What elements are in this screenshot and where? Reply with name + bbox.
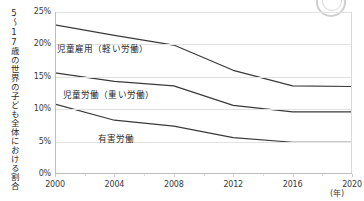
x-axis-tick-label: 2012 <box>213 180 253 189</box>
plot-right-border <box>351 12 352 174</box>
x-axis-tick <box>352 174 353 177</box>
y-axis-tick-label: 20% <box>25 39 51 48</box>
x-axis-tick-label: 2016 <box>273 180 313 189</box>
gridline <box>55 77 352 78</box>
x-axis-tick-label: 2004 <box>94 180 134 189</box>
gridline <box>55 12 352 13</box>
gridline <box>55 109 352 110</box>
series-label-child-labour: 児童労働（重い労働） <box>63 88 154 100</box>
y-axis-tick-label: 15% <box>25 72 51 81</box>
series-label-child-employment: 児童雇用（軽い労働） <box>57 42 148 54</box>
series-label-hazardous-work: 有害労働 <box>98 132 134 144</box>
line-chart: 5〜17歳の世界の子ども全体における割合 0%5%10%15%20%25% 20… <box>0 0 364 201</box>
y-axis-line <box>55 12 56 174</box>
x-axis-tick-label: 2000 <box>35 180 75 189</box>
x-axis-minor-tick <box>174 174 175 176</box>
x-axis-minor-tick <box>233 174 234 176</box>
x-axis-minor-tick <box>322 174 323 176</box>
y-axis-tick-label: 0% <box>25 169 51 178</box>
x-axis-minor-tick <box>263 174 264 176</box>
y-axis-title: 5〜17歳の世界の子ども全体における割合 <box>2 8 18 188</box>
x-axis-tick-label: 2008 <box>154 180 194 189</box>
x-axis-minor-tick <box>85 174 86 176</box>
y-axis-tick-label: 5% <box>25 137 51 146</box>
x-axis-minor-tick <box>114 174 115 176</box>
x-axis-tick <box>55 174 56 177</box>
x-axis-minor-tick <box>204 174 205 176</box>
y-axis-tick-label: 25% <box>25 7 51 16</box>
x-axis-minor-tick <box>293 174 294 176</box>
x-axis-minor-tick <box>144 174 145 176</box>
y-axis-tick-label: 10% <box>25 104 51 113</box>
x-axis-line <box>55 173 352 174</box>
x-axis-unit-label: (年) <box>330 187 344 198</box>
